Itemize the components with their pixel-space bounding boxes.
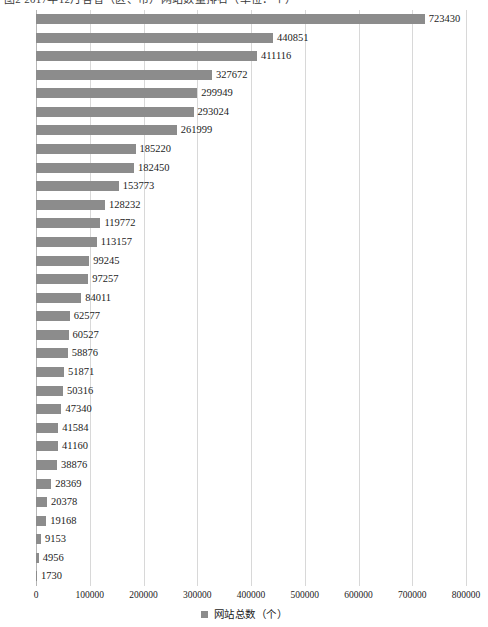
bar-row[interactable]: 广东723430 bbox=[36, 10, 466, 29]
bar-row[interactable]: 福建153773 bbox=[36, 177, 466, 196]
bar-row[interactable]: 新疆9153 bbox=[36, 530, 466, 549]
x-tick-label: 500000 bbox=[291, 589, 320, 601]
bar[interactable] bbox=[36, 367, 64, 377]
bar[interactable] bbox=[36, 404, 61, 414]
x-tick-label: 300000 bbox=[183, 589, 212, 601]
bar-row[interactable]: 浙江293024 bbox=[36, 103, 466, 122]
bar-row[interactable]: 广西60527 bbox=[36, 326, 466, 345]
bar-value-label: 41160 bbox=[62, 438, 88, 454]
bar-value-label: 293024 bbox=[198, 104, 230, 120]
bar[interactable] bbox=[36, 386, 63, 396]
bar[interactable] bbox=[36, 330, 69, 340]
bar[interactable] bbox=[36, 144, 136, 154]
bar[interactable] bbox=[36, 125, 177, 135]
page-title: 图2 2017年12月各省（区、市）网站数量排名（单位：个） bbox=[4, 0, 296, 6]
bar-row[interactable]: 青海4956 bbox=[36, 549, 466, 568]
bar-value-label: 9153 bbox=[45, 531, 66, 547]
bar[interactable] bbox=[36, 163, 134, 173]
x-tick-label: 700000 bbox=[398, 589, 427, 601]
bar-value-label: 411116 bbox=[261, 48, 291, 64]
bar-value-label: 84011 bbox=[85, 290, 111, 306]
bar-row[interactable]: 辽宁99245 bbox=[36, 252, 466, 271]
plot-area: 广东723430北京440851江苏411116上海327672山东299949… bbox=[36, 10, 466, 586]
bar[interactable] bbox=[36, 497, 47, 507]
bar-row[interactable]: 黑龙江38876 bbox=[36, 456, 466, 475]
bar-value-label: 20378 bbox=[51, 494, 77, 510]
bar[interactable] bbox=[36, 274, 88, 284]
bar[interactable] bbox=[36, 14, 425, 24]
bar-value-label: 119772 bbox=[104, 215, 135, 231]
bar-row[interactable]: 湖南97257 bbox=[36, 270, 466, 289]
bar-row[interactable]: 西藏1730 bbox=[36, 567, 466, 586]
bar-row[interactable]: 上海327672 bbox=[36, 66, 466, 85]
bar[interactable] bbox=[36, 181, 119, 191]
bar[interactable] bbox=[36, 534, 41, 544]
bar-row[interactable]: 山东299949 bbox=[36, 84, 466, 103]
bar-value-label: 299949 bbox=[201, 85, 233, 101]
bar-row[interactable]: 山西58876 bbox=[36, 344, 466, 363]
bar[interactable] bbox=[36, 441, 58, 451]
bar[interactable] bbox=[36, 423, 58, 433]
legend-swatch-icon bbox=[201, 611, 208, 618]
bar[interactable] bbox=[36, 516, 46, 526]
bar-value-label: 327672 bbox=[216, 67, 248, 83]
bar-row[interactable]: 安徽128232 bbox=[36, 196, 466, 215]
bar-row[interactable]: 河南261999 bbox=[36, 121, 466, 140]
bar-row[interactable]: 重庆84011 bbox=[36, 289, 466, 308]
bar-value-label: 60527 bbox=[73, 327, 99, 343]
bar[interactable] bbox=[36, 348, 68, 358]
bar[interactable] bbox=[36, 311, 70, 321]
bar[interactable] bbox=[36, 70, 212, 80]
x-tick-label: 400000 bbox=[237, 589, 266, 601]
bar[interactable] bbox=[36, 553, 39, 563]
bar-value-label: 19168 bbox=[50, 513, 76, 529]
bar-value-label: 440851 bbox=[277, 30, 309, 46]
bar-row[interactable]: 天津50316 bbox=[36, 382, 466, 401]
bar-row[interactable]: 湖北119772 bbox=[36, 214, 466, 233]
bar[interactable] bbox=[36, 256, 89, 266]
bar-row[interactable]: 陕西113157 bbox=[36, 233, 466, 252]
x-tick-label: 600000 bbox=[344, 589, 373, 601]
chart-page: 图2 2017年12月各省（区、市）网站数量排名（单位：个） 广东723430北… bbox=[0, 0, 488, 627]
bar-value-label: 38876 bbox=[61, 457, 87, 473]
bar[interactable] bbox=[36, 218, 100, 228]
bar-value-label: 50316 bbox=[67, 383, 93, 399]
bar-row[interactable]: 江西62577 bbox=[36, 307, 466, 326]
bar[interactable] bbox=[36, 200, 105, 210]
bar[interactable] bbox=[36, 460, 57, 470]
bar-value-label: 113157 bbox=[101, 234, 132, 250]
x-tick-label: 0 bbox=[34, 589, 39, 601]
bar[interactable] bbox=[36, 33, 273, 43]
bar-value-label: 128232 bbox=[109, 197, 141, 213]
x-tick-label: 800000 bbox=[452, 589, 481, 601]
bar-value-label: 182450 bbox=[138, 160, 170, 176]
bar-value-label: 51871 bbox=[68, 364, 94, 380]
bar-row[interactable]: 贵州47340 bbox=[36, 400, 466, 419]
gridline bbox=[466, 10, 467, 586]
bar-row[interactable]: 北京440851 bbox=[36, 29, 466, 48]
bar-row[interactable]: 内蒙古41160 bbox=[36, 437, 466, 456]
bar[interactable] bbox=[36, 237, 97, 247]
bar-value-label: 723430 bbox=[429, 11, 461, 27]
bar-row[interactable]: 甘肃19168 bbox=[36, 512, 466, 531]
x-tick-label: 100000 bbox=[76, 589, 105, 601]
bar[interactable] bbox=[36, 51, 257, 61]
bar-row[interactable]: 云南51871 bbox=[36, 363, 466, 382]
bar[interactable] bbox=[36, 88, 197, 98]
bar-row[interactable]: 海南28369 bbox=[36, 475, 466, 494]
bar-row[interactable]: 四川185220 bbox=[36, 140, 466, 159]
bar-row[interactable]: 宁夏20378 bbox=[36, 493, 466, 512]
bar-value-label: 1730 bbox=[41, 568, 62, 584]
bar-value-label: 153773 bbox=[123, 178, 155, 194]
bar-value-label: 97257 bbox=[92, 271, 118, 287]
bar[interactable] bbox=[36, 293, 81, 303]
bar-value-label: 58876 bbox=[72, 345, 98, 361]
bar-value-label: 261999 bbox=[181, 122, 213, 138]
bar-row[interactable]: 河北182450 bbox=[36, 159, 466, 178]
bar[interactable] bbox=[36, 479, 51, 489]
bar-value-label: 28369 bbox=[55, 476, 81, 492]
bar[interactable] bbox=[36, 571, 37, 581]
bar-row[interactable]: 吉林41584 bbox=[36, 419, 466, 438]
bar[interactable] bbox=[36, 107, 194, 117]
bar-row[interactable]: 江苏411116 bbox=[36, 47, 466, 66]
